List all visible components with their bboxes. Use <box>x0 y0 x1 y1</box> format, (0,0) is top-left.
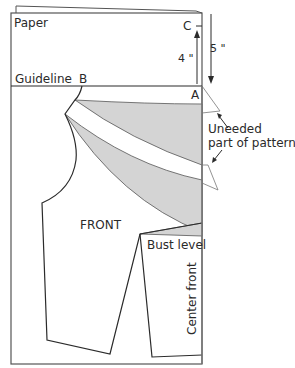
measure-4-label: 4 " <box>178 52 194 65</box>
flap-upper <box>202 86 220 113</box>
point-a-label: A <box>191 88 200 102</box>
paper-label: Paper <box>14 16 48 30</box>
pointer-upper-arrow-icon <box>217 113 222 119</box>
arrow-down-icon <box>208 76 214 84</box>
point-c-label: C <box>183 19 191 33</box>
arrow-up-icon <box>194 30 200 38</box>
front-label: FRONT <box>80 218 122 232</box>
measure-5-label: 5 " <box>210 42 226 55</box>
point-b-label: B <box>79 72 87 86</box>
back-paper-sheet <box>16 6 202 13</box>
flap-lower <box>202 165 218 190</box>
bust-level-label: Bust level <box>147 238 206 252</box>
center-front-label: Center front <box>185 262 199 335</box>
upper-dart-wedge <box>75 100 202 165</box>
uneeded-label-line1: Uneeded <box>208 122 262 136</box>
uneeded-label-line2: part of pattern <box>208 136 295 150</box>
guideline-label: Guideline <box>15 72 72 86</box>
pointer-lower <box>214 150 222 160</box>
pattern-diagram: Paper Guideline B C A 4 " 5 " Uneeded pa… <box>0 0 295 368</box>
